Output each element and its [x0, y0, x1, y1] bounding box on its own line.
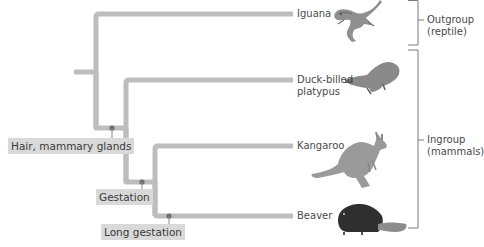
- platypus-icon: [345, 62, 400, 94]
- mammal-stem-branch: [96, 72, 126, 128]
- group-label-ingroup: Ingroup: [427, 134, 465, 146]
- taxon-label-platypus-line1: Duck-billed: [297, 74, 353, 86]
- trait-label-long-gestation: Long gestation: [101, 224, 185, 240]
- taxon-label-beaver: Beaver: [297, 210, 332, 222]
- group-label-outgroup: Outgroup: [427, 14, 474, 26]
- platypus-branch: [126, 80, 293, 182]
- taxon-label-platypus-line2: platypus: [297, 86, 340, 98]
- beaver-icon: [338, 204, 407, 235]
- outgroup-bracket: [408, 1, 418, 46]
- trait-label-hair-mammary-glands: Hair, mammary glands: [8, 138, 134, 154]
- beaver-branch: [155, 182, 293, 216]
- iguana-icon: [334, 0, 382, 42]
- group-label-outgroup-sub: (reptile): [427, 26, 467, 38]
- therian-stem-branch: [126, 128, 155, 182]
- ingroup-bracket: [408, 50, 418, 228]
- kangaroo-branch: [155, 146, 293, 216]
- taxon-label-kangaroo: Kangaroo: [297, 140, 344, 152]
- trait-label-gestation: Gestation: [96, 189, 153, 205]
- group-label-ingroup-sub: (mammals): [427, 146, 484, 158]
- taxon-label-iguana: Iguana: [297, 8, 331, 20]
